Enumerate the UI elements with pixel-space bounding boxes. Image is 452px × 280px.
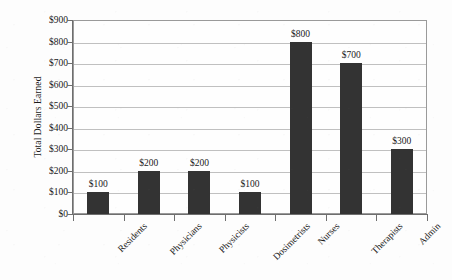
bar-value-label: $200	[124, 158, 174, 169]
x-axis-tick-mark	[376, 215, 377, 221]
y-axis-tick-mark	[67, 106, 73, 107]
bar-chart: Total Dollars Earned $0$100$200$300$400$…	[0, 0, 452, 280]
bar-value-label: $700	[326, 50, 376, 61]
bar-value-label: $300	[377, 136, 427, 147]
x-axis-tick-mark	[73, 215, 74, 221]
x-axis-category-label: Dosimetrists	[271, 221, 313, 263]
y-axis-tick-mark	[67, 149, 73, 150]
x-axis-category-label: Admin	[416, 221, 442, 247]
y-axis-tick-mark	[67, 128, 73, 129]
y-axis-tick-mark	[67, 192, 73, 193]
bar-value-label: $100	[225, 179, 275, 190]
bar-value-label: $800	[276, 29, 326, 40]
y-axis-tick-mark	[67, 63, 73, 64]
bar-value-label: $200	[174, 158, 224, 169]
x-axis-tick-mark	[275, 215, 276, 221]
x-axis-category-label: Physicists	[218, 221, 253, 256]
x-axis-category-label: Nurses	[315, 221, 341, 247]
bar-value-label: $100	[73, 179, 123, 190]
x-axis-tick-mark	[174, 215, 175, 221]
y-axis-tick-mark	[67, 85, 73, 86]
x-axis-tick-mark	[225, 215, 226, 221]
x-axis-category-label: Physicians	[168, 221, 205, 258]
x-axis-tick-mark	[326, 215, 327, 221]
x-axis-category-label: Residents	[116, 221, 150, 255]
x-axis-tick-mark	[427, 215, 428, 221]
x-axis-category-label: Therapists	[370, 221, 406, 257]
y-axis-tick-mark	[67, 42, 73, 43]
y-axis-tick-mark	[67, 20, 73, 21]
y-axis-tick-mark	[67, 171, 73, 172]
x-axis-tick-mark	[124, 215, 125, 221]
